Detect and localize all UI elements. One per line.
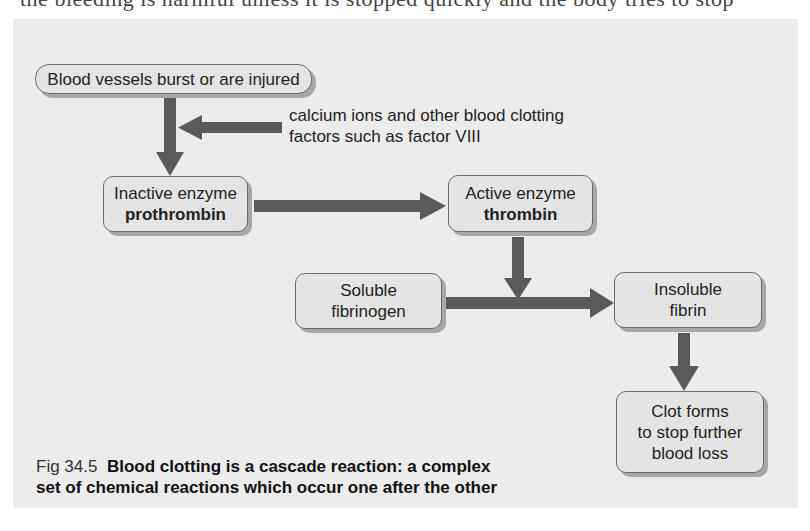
- callout-line-2: factors such as factor VIII: [289, 126, 609, 147]
- node-label-line-1: Insoluble: [654, 279, 722, 300]
- node-label-line-1: Inactive enzyme: [114, 183, 237, 204]
- node-label-line-2: prothrombin: [125, 204, 226, 225]
- node-label-line-1: Soluble: [340, 280, 397, 301]
- arrow-fibrinogen-to-fibrin: [446, 288, 614, 318]
- node-label-line-1: Active enzyme: [465, 183, 576, 204]
- arrow-start-to-prothrombin: [156, 95, 184, 176]
- callout-clotting-factors: calcium ions and other blood clotting fa…: [289, 105, 609, 147]
- caption-line-2: set of chemical reactions which occur on…: [36, 477, 556, 498]
- arrow-prothrombin-to-thrombin: [254, 192, 446, 220]
- figure-number: Fig 34.5: [36, 457, 97, 476]
- node-fibrinogen: Soluble fibrinogen: [295, 273, 442, 329]
- node-blood-vessels-injured: Blood vessels burst or are injured: [35, 64, 312, 94]
- node-label-line-2: fibrinogen: [331, 301, 406, 322]
- node-thrombin: Active enzyme thrombin: [448, 175, 593, 232]
- node-label-line-2: to stop further: [638, 422, 743, 443]
- node-label-line-2: fibrin: [670, 300, 707, 321]
- node-label: Blood vessels burst or are injured: [47, 69, 299, 90]
- figure-caption: Fig 34.5 Blood clotting is a cascade rea…: [36, 456, 556, 498]
- arrow-fibrin-to-clot: [669, 333, 699, 391]
- arrow-thrombin-to-reaction: [504, 237, 532, 300]
- node-prothrombin: Inactive enzyme prothrombin: [103, 176, 248, 232]
- node-label-line-3: blood loss: [652, 443, 729, 464]
- node-fibrin: Insoluble fibrin: [614, 272, 762, 328]
- node-label-line-1: Clot forms: [651, 401, 728, 422]
- callout-line-1: calcium ions and other blood clotting: [289, 105, 609, 126]
- node-label-line-2: thrombin: [484, 204, 558, 225]
- node-clot-forms: Clot forms to stop further blood loss: [616, 391, 764, 473]
- caption-line-1: Blood clotting is a cascade reaction: a …: [107, 457, 491, 476]
- arrow-callout-to-edge: [178, 115, 282, 140]
